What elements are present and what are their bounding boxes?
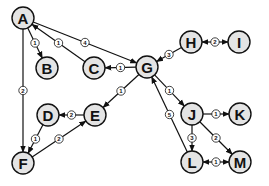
node-label: H (186, 34, 197, 51)
node-label: K (235, 106, 246, 123)
edge-weight-badge: 2 (67, 111, 75, 119)
nodes-layer: ABCGHIDEFJKLM (12, 7, 251, 174)
node-h: H (180, 31, 202, 53)
node-label: L (187, 154, 196, 171)
node-m: M (229, 151, 251, 173)
edge-weight-badge: 1 (31, 39, 39, 47)
edge-weight-badge: 4 (81, 38, 89, 46)
edge-weight-badge: 2 (55, 135, 63, 143)
node-label: F (18, 155, 27, 172)
node-label: E (90, 107, 100, 124)
edge-weight-badge: 3 (165, 50, 173, 58)
edge-weight-badge: 3 (188, 134, 196, 142)
node-label: B (42, 60, 53, 77)
node-label: D (43, 107, 54, 124)
node-label: A (18, 10, 29, 27)
edge-weight-badge: 5 (165, 110, 173, 118)
node-label: M (234, 154, 247, 171)
node-a: A (12, 7, 34, 29)
node-f: F (12, 152, 34, 174)
node-k: K (229, 103, 251, 125)
node-c: C (83, 57, 105, 79)
edge-weight-badge: 1 (165, 86, 173, 94)
node-label: G (141, 59, 153, 76)
node-g: G (136, 56, 158, 78)
edge-weight-badge: 1 (116, 63, 124, 71)
edge-weight-badge: 2 (19, 86, 27, 94)
node-label: J (188, 106, 196, 123)
edge-weight-badge: 1 (212, 110, 220, 118)
edge-weight-badge: 1 (212, 158, 220, 166)
edge-weight-badge: 1 (117, 87, 125, 95)
node-l: L (181, 151, 203, 173)
node-e: E (84, 104, 106, 126)
edge-weight-badge: 1 (31, 135, 39, 143)
node-i: I (228, 31, 250, 53)
edge-weight-badge: 1 (54, 39, 62, 47)
node-d: D (37, 104, 59, 126)
graph-diagram: 11412321212151321 ABCGHIDEFJKLM (0, 0, 269, 186)
edge-weight-badge: 2 (212, 134, 220, 142)
node-label: I (237, 34, 241, 51)
node-label: C (89, 60, 100, 77)
node-b: B (36, 57, 58, 79)
node-j: J (181, 103, 203, 125)
edge-weight-badge: 2 (211, 38, 219, 46)
